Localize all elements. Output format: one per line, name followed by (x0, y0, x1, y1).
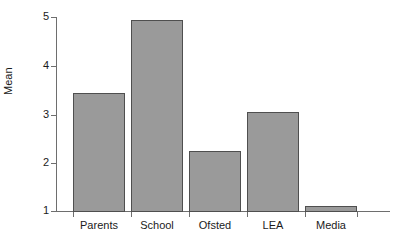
y-tick-mark-1 (51, 211, 56, 212)
x-tick-mark-4 (305, 212, 306, 217)
x-tick-label-lea: LEA (247, 220, 299, 231)
y-axis-title: Mean (2, 67, 14, 95)
y-tick-mark-5 (51, 17, 56, 18)
y-axis-line (56, 17, 57, 212)
bar-school (131, 20, 183, 212)
x-tick-label-media: Media (305, 220, 357, 231)
y-tick-mark-3 (51, 115, 56, 116)
x-tick-mark-2 (189, 212, 190, 217)
y-tick-label-2: 2 (27, 157, 49, 168)
x-tick-label-ofsted: Ofsted (189, 220, 241, 231)
x-tick-mark-3 (247, 212, 248, 217)
bar-parents (73, 93, 125, 212)
plot-area: Mean 5 4 3 2 1 Parents School Ofsted LEA (0, 0, 404, 246)
x-tick-mark-1 (131, 212, 132, 217)
x-tick-mark-0 (73, 212, 74, 217)
x-tick-label-school: School (131, 220, 183, 231)
y-tick-label-5: 5 (27, 11, 49, 22)
y-tick-label-1: 1 (27, 205, 49, 216)
x-tick-label-parents: Parents (73, 220, 125, 231)
y-tick-label-3: 3 (27, 109, 49, 120)
x-tick-mark-5 (357, 212, 358, 217)
bar-media (305, 206, 357, 212)
y-tick-mark-4 (51, 66, 56, 67)
y-tick-mark-2 (51, 163, 56, 164)
bar-lea (247, 112, 299, 212)
y-tick-label-4: 4 (27, 60, 49, 71)
bar-ofsted (189, 151, 241, 212)
bar-chart: Mean 5 4 3 2 1 Parents School Ofsted LEA (0, 0, 404, 246)
